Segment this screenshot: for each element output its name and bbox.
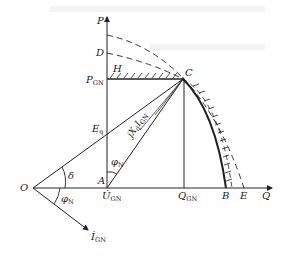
point-c-label: C <box>185 68 193 78</box>
point-h-label: H <box>113 64 122 74</box>
point-a-label: A <box>98 176 105 186</box>
jxd-ign-phasor <box>107 79 183 188</box>
p-axis-label: P <box>97 16 104 26</box>
delta-angle-arc <box>62 167 66 188</box>
q-gn-label: QGN <box>178 191 197 203</box>
eq-sub: q <box>99 128 103 136</box>
p-gn-label: PGN <box>86 75 104 87</box>
ray <box>155 79 183 115</box>
point-b-label: B <box>222 191 229 201</box>
delta-label: δ <box>68 171 74 181</box>
p-gn-sub: GN <box>93 79 104 87</box>
phi-n-label-a: φN <box>111 157 124 169</box>
stator-limit-arc <box>183 79 226 188</box>
p-gn-main: P <box>86 74 93 85</box>
u-gn-label: U̇GN <box>102 191 121 203</box>
i-gn-label: İGN <box>91 232 106 244</box>
phi-n-angle-arc-o <box>54 188 60 204</box>
eq-label: Eq <box>92 124 103 136</box>
point-c-dot <box>182 78 185 81</box>
q-axis-label: Q <box>262 191 270 201</box>
origin-label: O <box>20 183 28 193</box>
phi-n-label-o: φN <box>61 194 74 206</box>
phi-n-angle-arc-a <box>107 172 117 174</box>
c-b-dashed-arc <box>183 79 232 188</box>
point-e-label: E <box>240 191 247 201</box>
point-d-label: D <box>96 48 104 58</box>
